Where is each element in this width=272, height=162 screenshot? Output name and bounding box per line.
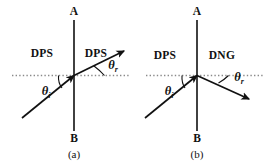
panel-caption-a: (a) (68, 148, 81, 161)
panel-caption-b: (b) (191, 148, 204, 161)
refracted-angle-arc-a (94, 66, 105, 76)
interface-bottom-label-b: B (193, 132, 201, 144)
refracted-angle-label-b: θr (234, 70, 245, 86)
interface-top-label-a: A (70, 5, 79, 17)
incident-angle-label-a: θi (42, 84, 52, 100)
incident-angle-label-b: θi (165, 84, 175, 100)
panel-b: A B DPS DNG θi θr (b) (136, 0, 272, 162)
refracted-angle-subscript-b: r (241, 77, 245, 86)
refraction-figure: A B DPS DPS θi θr (a) (0, 0, 272, 162)
panel-a: A B DPS DPS θi θr (a) (0, 0, 136, 162)
refracted-angle-label-a: θr (108, 58, 119, 74)
right-medium-label-b: DNG (209, 49, 235, 61)
right-medium-label-a: DPS (85, 47, 108, 59)
left-medium-label-b: DPS (154, 49, 177, 61)
interface-bottom-label-a: B (70, 132, 78, 144)
interface-top-label-b: A (193, 5, 202, 17)
refracted-angle-arc-b (219, 76, 229, 84)
refracted-angle-subscript-a: r (115, 65, 119, 74)
left-medium-label-a: DPS (31, 47, 54, 59)
